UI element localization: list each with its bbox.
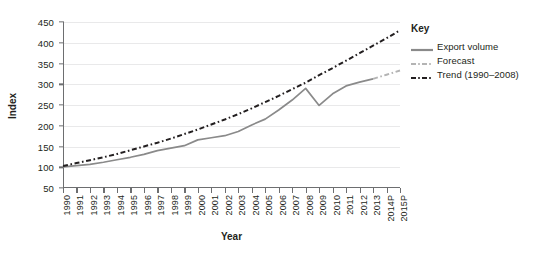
- x-axis-tick: [63, 188, 64, 193]
- x-axis-tick: [144, 188, 145, 193]
- y-axis-tick-label: 300: [38, 79, 54, 90]
- x-axis-tick: [90, 188, 91, 193]
- x-axis-title: Year: [63, 231, 400, 242]
- dash-dot-light-line-swatch: [411, 55, 433, 65]
- x-axis-tick: [157, 188, 158, 193]
- y-axis-tick-label: 100: [38, 162, 54, 173]
- x-axis-tick-label: 2009: [318, 195, 328, 215]
- x-axis-tick: [400, 188, 401, 193]
- x-axis-tick: [211, 188, 212, 193]
- x-axis-tick-label: 1995: [129, 195, 139, 215]
- x-axis-tick-label: 1990: [62, 195, 72, 215]
- chart-legend: Key Export volumeForecastTrend (1990–200…: [411, 23, 537, 81]
- y-axis-tick-labels: 50100150200250300350400450: [20, 22, 60, 188]
- x-axis-tick-label: 2001: [210, 195, 220, 215]
- y-axis-tick-label: 400: [38, 37, 54, 48]
- x-axis-tick-label: 1998: [170, 195, 180, 215]
- y-axis-tick-label: 50: [43, 183, 54, 194]
- x-axis-tick-label: 2000: [197, 195, 207, 215]
- x-axis-tick: [346, 188, 347, 193]
- x-axis-tick: [103, 188, 104, 193]
- x-axis-tick: [292, 188, 293, 193]
- y-axis-title: Index: [7, 93, 18, 119]
- legend-items: Export volumeForecastTrend (1990–2008): [411, 39, 537, 81]
- series-line-trend-1990-2008: [63, 30, 400, 166]
- x-axis-tick: [387, 188, 388, 193]
- x-axis-tick-label: 1993: [102, 195, 112, 215]
- x-axis-tick: [117, 188, 118, 193]
- x-axis-tick-label: 1991: [75, 195, 85, 215]
- x-axis-tick-label: 2003: [237, 195, 247, 215]
- series-layer: [63, 22, 400, 188]
- x-axis-tick-label: 1996: [143, 195, 153, 215]
- y-axis-tick-label: 150: [38, 141, 54, 152]
- x-axis-tick: [171, 188, 172, 193]
- legend-item-label: Export volume: [437, 41, 498, 52]
- dash-dot-dark-line-swatch: [411, 69, 433, 79]
- x-axis-tick: [333, 188, 334, 193]
- x-axis-tick-labels: 1990199119921993199419951996199719981999…: [63, 195, 400, 229]
- x-axis-tick-label: 2008: [305, 195, 315, 215]
- y-axis-tick-label: 450: [38, 17, 54, 28]
- legend-item: Trend (1990–2008): [411, 67, 537, 81]
- series-line-forecast: [373, 71, 400, 79]
- x-axis-tick-label: 2012: [359, 195, 369, 215]
- x-axis-ticks: [63, 188, 400, 194]
- x-axis-tick-label: 1992: [89, 195, 99, 215]
- x-axis-tick: [238, 188, 239, 193]
- solid-line-swatch: [411, 41, 433, 51]
- legend-item: Forecast: [411, 53, 537, 67]
- x-axis-tick-label: 2006: [278, 195, 288, 215]
- x-axis-tick-label: 2010: [332, 195, 342, 215]
- x-axis-tick-label: 2013: [372, 195, 382, 215]
- x-axis-tick-label: 2011: [345, 195, 355, 215]
- x-axis-tick-label: 2014P: [386, 195, 396, 222]
- x-axis-tick: [252, 188, 253, 193]
- x-axis-tick-label: 2002: [224, 195, 234, 215]
- x-axis-tick-label: 2005: [264, 195, 274, 215]
- x-axis-tick-label: 1994: [116, 195, 126, 215]
- x-axis-tick: [184, 188, 185, 193]
- caption-clipped-text: [18, 249, 348, 257]
- chart-figure: Index 50100150200250300350400450 1990199…: [0, 0, 539, 257]
- x-axis-tick-label: 2004: [251, 195, 261, 215]
- x-axis-tick: [306, 188, 307, 193]
- x-axis-tick: [76, 188, 77, 193]
- x-axis-tick-label: 2007: [291, 195, 301, 215]
- x-axis-tick: [319, 188, 320, 193]
- x-axis-tick-label: 1999: [183, 195, 193, 215]
- x-axis-tick-label: 1997: [156, 195, 166, 215]
- y-axis-tick-label: 200: [38, 120, 54, 131]
- x-axis-tick: [225, 188, 226, 193]
- y-axis-title-container: Index: [14, 22, 18, 188]
- x-axis-tick: [360, 188, 361, 193]
- x-axis-tick: [130, 188, 131, 193]
- legend-item-label: Forecast: [437, 55, 474, 66]
- x-axis-tick: [279, 188, 280, 193]
- x-axis-tick: [373, 188, 374, 193]
- x-axis-tick: [265, 188, 266, 193]
- y-axis-tick-label: 350: [38, 58, 54, 69]
- y-axis-tick-label: 250: [38, 100, 54, 111]
- legend-item-label: Trend (1990–2008): [437, 69, 519, 80]
- x-axis-tick: [198, 188, 199, 193]
- legend-title: Key: [411, 23, 537, 34]
- x-axis-tick-label: 2015P: [399, 195, 409, 222]
- legend-item: Export volume: [411, 39, 537, 53]
